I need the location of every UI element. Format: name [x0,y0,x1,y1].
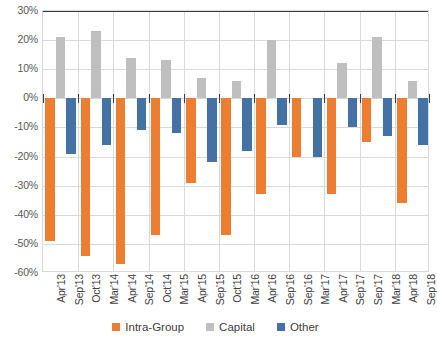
y-tick-label: 20% [18,33,38,45]
zero-axis-tick [289,94,290,103]
bar-other-Oct'15-Mar'16 [242,98,252,150]
legend-swatch-icon [277,323,285,331]
bar-intra-group-Apr'18-Sep'18 [397,98,407,203]
bar-capital-Apr'13-Sep'13 [56,37,66,98]
y-tick-label: 30% [18,4,38,16]
x-tick-label: Sep'16 [284,274,296,305]
legend-label: Intra-Group [125,321,184,333]
zero-axis-tick [324,94,325,103]
x-tick-label: Sep'13 [73,274,85,305]
bar-capital-Apr'18-Sep'18 [408,81,418,98]
zero-axis-tick [43,94,44,103]
x-tick-label: Mar'18 [390,274,402,305]
zero-axis-tick [149,94,150,103]
zero-axis-tick [78,94,79,103]
x-tick-label: Sep'17 [372,274,384,305]
zero-axis-tick [395,94,396,103]
zero-axis-tick [254,94,255,103]
bar-intra-group-Apr'17-Sep'17 [327,98,337,194]
y-tick-label: -30% [14,179,38,191]
y-tick-label: 0% [23,91,38,103]
bar-capital-Sep'17-Mar'18 [372,37,382,98]
bar-other-Apr'17-Sep'17 [348,98,358,127]
y-tick-label: -60% [14,266,38,278]
legend-label: Other [290,321,319,333]
bar-capital-Oct'14-Mar'15 [161,60,171,98]
x-tick-label: Sep'17 [354,274,366,305]
x-tick-label: Apr'15 [196,274,208,303]
x-tick-label: Mar'16 [249,274,261,305]
legend-label: Capital [219,321,255,333]
x-tick-label: Apr'17 [337,274,349,303]
bar-capital-Apr'15-Sep'15 [197,78,207,98]
zero-axis-tick [184,94,185,103]
bar-intra-group-Oct'15-Mar'16 [221,98,231,235]
y-tick-label: 10% [18,62,38,74]
bar-other-Sep'16-Mar'17 [313,98,323,156]
bar-intra-group-Apr'15-Sep'15 [186,98,196,182]
bar-other-Sep'17-Mar'18 [383,98,393,136]
x-tick-label: Sep'14 [143,274,155,305]
legend-item-capital[interactable]: Capital [206,321,255,333]
bar-intra-group-Oct'13-Mar'14 [81,98,91,255]
x-tick-label: Oct'13 [90,274,102,303]
y-tick-label: -10% [14,120,38,132]
zero-axis-tick [219,94,220,103]
bar-other-Apr'14-Sep'14 [137,98,147,130]
bar-capital-Apr'16-Sep'16 [267,40,277,98]
x-tick-label: Mar'14 [108,274,120,305]
x-axis: Apr'13Sep'13Oct'13Mar'14Apr'14Sep'14Oct'… [42,274,429,314]
bar-other-Apr'13-Sep'13 [66,98,76,153]
bar-other-Apr'15-Sep'15 [207,98,217,162]
bar-intra-group-Apr'14-Sep'14 [116,98,126,264]
bars-layer [43,11,428,271]
legend-swatch-icon [206,323,214,331]
bar-other-Oct'14-Mar'15 [172,98,182,133]
x-tick-label: Sep'18 [425,274,437,305]
x-tick-label: Sep'15 [214,274,226,305]
bar-other-Apr'16-Sep'16 [277,98,287,124]
bar-intra-group-Apr'16-Sep'16 [256,98,266,194]
x-tick-label: Apr'14 [126,274,138,303]
bar-other-Oct'13-Mar'14 [102,98,112,145]
y-tick-label: -50% [14,237,38,249]
x-tick-label: Oct'14 [161,274,173,303]
bar-other-Apr'18-Sep'18 [418,98,428,145]
x-tick-label: Apr'13 [55,274,67,303]
legend-swatch-icon [112,323,120,331]
bar-intra-group-Sep'17-Mar'18 [362,98,372,142]
x-tick-label: Sep'16 [302,274,314,305]
chart-legend: Intra-GroupCapitalOther [0,316,431,338]
x-tick-label: Mar'15 [178,274,190,305]
plot-area [42,10,429,272]
legend-item-other[interactable]: Other [277,321,319,333]
x-tick-label: Mar'17 [319,274,331,305]
zero-axis-tick [360,94,361,103]
bar-capital-Oct'13-Mar'14 [91,31,101,98]
y-tick-label: -40% [14,208,38,220]
y-axis: 30%20%10%0%-10%-20%-30%-40%-50%-60% [0,10,42,272]
x-tick-label: Oct'15 [231,274,243,303]
bar-intra-group-Apr'13-Sep'13 [45,98,55,241]
legend-item-intra-group[interactable]: Intra-Group [112,321,184,333]
zero-axis-tick [429,94,430,103]
x-tick-label: Apr'18 [407,274,419,303]
zero-axis-tick [113,94,114,103]
bar-intra-group-Oct'14-Mar'15 [151,98,161,235]
bar-intra-group-Sep'16-Mar'17 [292,98,302,156]
x-tick-label: Apr'16 [266,274,278,303]
bar-capital-Apr'17-Sep'17 [337,63,347,98]
bar-capital-Oct'15-Mar'16 [232,81,242,98]
bar-capital-Apr'14-Sep'14 [126,58,136,99]
y-tick-label: -20% [14,150,38,162]
zero-axis-line [43,11,428,12]
